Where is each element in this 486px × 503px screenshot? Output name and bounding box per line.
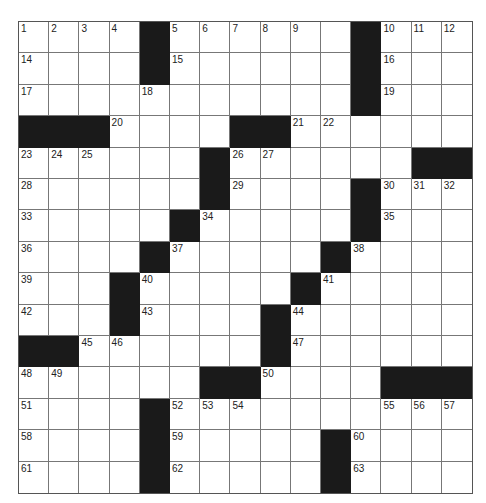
- grid-cell[interactable]: 4: [110, 22, 140, 53]
- grid-cell[interactable]: 31: [412, 179, 442, 210]
- grid-cell[interactable]: [291, 462, 321, 493]
- grid-cell[interactable]: [79, 242, 109, 273]
- grid-cell[interactable]: [351, 273, 381, 304]
- grid-cell[interactable]: 55: [381, 399, 411, 430]
- grid-cell[interactable]: [200, 85, 230, 116]
- grid-cell[interactable]: [49, 179, 79, 210]
- grid-cell[interactable]: [412, 305, 442, 336]
- grid-cell[interactable]: [110, 148, 140, 179]
- grid-cell[interactable]: [412, 336, 442, 367]
- grid-cell[interactable]: [79, 179, 109, 210]
- grid-cell[interactable]: [261, 179, 291, 210]
- grid-cell[interactable]: 24: [49, 148, 79, 179]
- grid-cell[interactable]: 54: [230, 399, 260, 430]
- grid-cell[interactable]: [230, 210, 260, 241]
- grid-cell[interactable]: [261, 273, 291, 304]
- grid-cell[interactable]: [230, 336, 260, 367]
- grid-cell[interactable]: [381, 462, 411, 493]
- grid-cell[interactable]: [442, 336, 472, 367]
- grid-cell[interactable]: [412, 430, 442, 461]
- grid-cell[interactable]: 12: [442, 22, 472, 53]
- grid-cell[interactable]: [291, 85, 321, 116]
- grid-cell[interactable]: [170, 116, 200, 147]
- grid-cell[interactable]: 41: [321, 273, 351, 304]
- grid-cell[interactable]: 63: [351, 462, 381, 493]
- grid-cell[interactable]: [321, 336, 351, 367]
- grid-cell[interactable]: 40: [140, 273, 170, 304]
- grid-cell[interactable]: [79, 367, 109, 398]
- grid-cell[interactable]: [200, 53, 230, 84]
- grid-cell[interactable]: 47: [291, 336, 321, 367]
- grid-cell[interactable]: 35: [381, 210, 411, 241]
- grid-cell[interactable]: [230, 305, 260, 336]
- grid-cell[interactable]: 48: [19, 367, 49, 398]
- grid-cell[interactable]: [49, 399, 79, 430]
- grid-cell[interactable]: [49, 305, 79, 336]
- grid-cell[interactable]: [442, 53, 472, 84]
- grid-cell[interactable]: [261, 462, 291, 493]
- grid-cell[interactable]: 1: [19, 22, 49, 53]
- grid-cell[interactable]: [79, 53, 109, 84]
- grid-cell[interactable]: 46: [110, 336, 140, 367]
- grid-cell[interactable]: 21: [291, 116, 321, 147]
- grid-cell[interactable]: [140, 367, 170, 398]
- grid-cell[interactable]: [442, 85, 472, 116]
- grid-cell[interactable]: [381, 242, 411, 273]
- grid-cell[interactable]: [442, 462, 472, 493]
- grid-cell[interactable]: [412, 85, 442, 116]
- grid-cell[interactable]: [110, 242, 140, 273]
- grid-cell[interactable]: [261, 53, 291, 84]
- grid-cell[interactable]: [412, 116, 442, 147]
- grid-cell[interactable]: [381, 305, 411, 336]
- grid-cell[interactable]: [442, 242, 472, 273]
- grid-cell[interactable]: [200, 305, 230, 336]
- grid-cell[interactable]: [110, 430, 140, 461]
- grid-cell[interactable]: 39: [19, 273, 49, 304]
- grid-cell[interactable]: [49, 53, 79, 84]
- grid-cell[interactable]: 42: [19, 305, 49, 336]
- grid-cell[interactable]: 45: [79, 336, 109, 367]
- grid-cell[interactable]: 27: [261, 148, 291, 179]
- grid-cell[interactable]: 3: [79, 22, 109, 53]
- grid-cell[interactable]: [321, 305, 351, 336]
- grid-cell[interactable]: [230, 273, 260, 304]
- grid-cell[interactable]: [140, 210, 170, 241]
- grid-cell[interactable]: [291, 399, 321, 430]
- grid-cell[interactable]: [110, 210, 140, 241]
- grid-cell[interactable]: [200, 116, 230, 147]
- grid-cell[interactable]: [381, 148, 411, 179]
- grid-cell[interactable]: 59: [170, 430, 200, 461]
- grid-cell[interactable]: [230, 53, 260, 84]
- grid-cell[interactable]: [200, 242, 230, 273]
- grid-cell[interactable]: [291, 242, 321, 273]
- grid-cell[interactable]: [412, 210, 442, 241]
- grid-cell[interactable]: [351, 399, 381, 430]
- grid-cell[interactable]: [170, 305, 200, 336]
- grid-cell[interactable]: 26: [230, 148, 260, 179]
- grid-cell[interactable]: [381, 336, 411, 367]
- grid-cell[interactable]: 19: [381, 85, 411, 116]
- grid-cell[interactable]: 44: [291, 305, 321, 336]
- grid-cell[interactable]: 52: [170, 399, 200, 430]
- grid-cell[interactable]: [442, 116, 472, 147]
- grid-cell[interactable]: 23: [19, 148, 49, 179]
- grid-cell[interactable]: [79, 430, 109, 461]
- grid-cell[interactable]: [110, 367, 140, 398]
- grid-cell[interactable]: [200, 430, 230, 461]
- grid-cell[interactable]: [170, 367, 200, 398]
- grid-cell[interactable]: [321, 210, 351, 241]
- grid-cell[interactable]: [351, 148, 381, 179]
- grid-cell[interactable]: 58: [19, 430, 49, 461]
- grid-cell[interactable]: [351, 336, 381, 367]
- grid-cell[interactable]: 30: [381, 179, 411, 210]
- grid-cell[interactable]: 11: [412, 22, 442, 53]
- grid-cell[interactable]: [261, 85, 291, 116]
- grid-cell[interactable]: 33: [19, 210, 49, 241]
- grid-cell[interactable]: [110, 462, 140, 493]
- grid-cell[interactable]: [230, 430, 260, 461]
- grid-cell[interactable]: 34: [200, 210, 230, 241]
- grid-cell[interactable]: [321, 85, 351, 116]
- grid-cell[interactable]: [79, 273, 109, 304]
- grid-cell[interactable]: [351, 305, 381, 336]
- grid-cell[interactable]: 16: [381, 53, 411, 84]
